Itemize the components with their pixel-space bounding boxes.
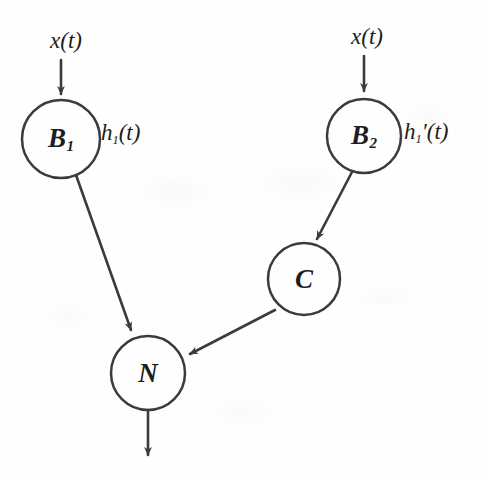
block-diagram-graphics (0, 0, 484, 479)
figure-canvas: B1 B2 C N x(t) x(t) h1(t) h1′(t) (0, 0, 484, 479)
edge-B1-to-N (76, 175, 131, 330)
response-label-h1-prime-group: h1′(t) (404, 119, 448, 147)
node-label-N-base: N (138, 358, 158, 388)
input-label-left: x(t) (50, 28, 82, 54)
node-label-B2-subscript: 2 (369, 135, 377, 151)
response-label-h1-arg: (t) (119, 120, 141, 145)
node-label-B1-subscript: 1 (66, 138, 74, 154)
node-label-B2: B2 (351, 120, 377, 152)
edge-C-to-N (190, 310, 275, 354)
edge-B2-to-C (317, 172, 352, 239)
response-label-h1p-base: h (404, 119, 416, 144)
response-label-h1-base: h (101, 120, 113, 145)
response-label-h1p-arg: (t) (427, 119, 449, 144)
node-label-N: N (138, 358, 158, 389)
node-label-C: C (295, 264, 313, 295)
node-label-B1: B1 (48, 123, 74, 155)
node-label-B1-base: B (48, 123, 66, 153)
input-label-right: x(t) (351, 24, 383, 50)
node-label-B2-base: B (351, 120, 369, 150)
node-label-C-base: C (295, 264, 313, 294)
response-label-h1: h1(t) (101, 120, 140, 148)
